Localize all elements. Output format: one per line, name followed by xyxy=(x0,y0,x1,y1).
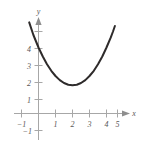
graph-figure: −1 1 2 3 4 5 4 3 2 1 −1 y x xyxy=(0,0,141,149)
x-tick-label: 1 xyxy=(54,120,58,129)
y-axis-arrow-icon xyxy=(35,17,41,25)
y-tick-label: 4 xyxy=(27,45,31,54)
y-negative-tick-label: −1 xyxy=(23,127,32,136)
y-tick-label: 3 xyxy=(26,62,31,71)
y-tick-label: 1 xyxy=(27,96,31,105)
x-axis-label: x xyxy=(131,109,136,118)
x-tick-label: 4 xyxy=(105,120,109,129)
parabola-plot: −1 1 2 3 4 5 4 3 2 1 −1 y x xyxy=(0,0,141,149)
x-axis-arrow-icon xyxy=(122,110,130,116)
y-tick-label: 2 xyxy=(27,79,31,88)
x-tick-label: 3 xyxy=(87,120,92,129)
x-tick-label: 5 xyxy=(116,120,120,129)
y-axis-label: y xyxy=(36,7,41,16)
x-tick-label: 2 xyxy=(71,120,75,129)
